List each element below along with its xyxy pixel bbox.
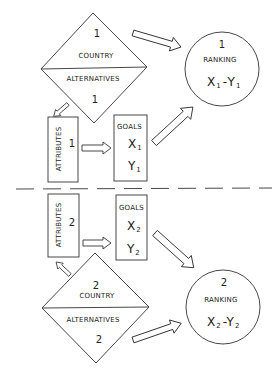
diamond-divider — [42, 307, 149, 308]
diagram-canvas: 1 COUNTRY ALTERNATIVES 1 ATTRIBUTES 1 GO… — [0, 0, 278, 375]
alternatives-label: ALTERNATIVES — [66, 316, 120, 324]
top-section: 1 COUNTRY ALTERNATIVES 1 ATTRIBUTES 1 GO… — [41, 13, 259, 182]
ranking-circle-1: 1 RANKING X1-Y1 — [185, 32, 259, 106]
alternatives-label: ALTERNATIVES — [66, 75, 120, 83]
ranking-number: 1 — [219, 39, 225, 50]
country-diamond-1: 1 COUNTRY ALTERNATIVES 1 — [41, 13, 147, 123]
ranking-formula: X2-Y2 — [207, 315, 239, 330]
goals-x: X1 — [128, 137, 142, 152]
ranking-label: RANKING — [204, 296, 237, 304]
arrow-attributes2-to-goals2 — [83, 237, 111, 249]
arrow-country2-to-attributes2 — [53, 259, 72, 278]
country-diamond-2: 2 COUNTRY ALTERNATIVES 2 — [42, 253, 149, 363]
attributes-box-1: ATTRIBUTES 1 — [48, 117, 78, 182]
country-number: 2 — [93, 280, 99, 291]
attributes-label: ATTRIBUTES — [55, 202, 63, 247]
arrow-goals2-to-ranking2 — [150, 227, 199, 273]
arrow-country1-to-ranking1 — [131, 26, 183, 53]
attributes-number: 2 — [69, 217, 75, 228]
country-number: 1 — [94, 28, 100, 39]
arrow-goals1-to-ranking1 — [149, 102, 198, 149]
goals-x: X2 — [127, 219, 141, 234]
attributes-number: 1 — [69, 138, 75, 149]
country-label: COUNTRY — [78, 52, 114, 60]
bottom-section: ATTRIBUTES 2 GOALS X2 Y2 2 COUNTRY ALTER… — [42, 194, 260, 363]
ranking-circle-2: 2 RANKING X2-Y2 — [186, 270, 260, 344]
goals-y: Y2 — [126, 242, 140, 257]
arrow-country2-to-ranking2 — [131, 317, 184, 347]
section-divider — [16, 188, 272, 189]
goals-y: Y1 — [127, 159, 141, 174]
country-label: COUNTRY — [79, 292, 115, 300]
attributes-box-2: ATTRIBUTES 2 — [48, 194, 79, 257]
attributes-label: ATTRIBUTES — [55, 126, 63, 171]
arrow-attributes1-to-goals1 — [82, 142, 111, 154]
ranking-label: RANKING — [203, 56, 236, 64]
goals-label: GOALS — [117, 123, 142, 131]
goals-box-1: GOALS X1 Y1 — [114, 115, 147, 181]
alternatives-number: 2 — [96, 334, 102, 345]
goals-box-2: GOALS X2 Y2 — [116, 195, 147, 260]
ranking-number: 2 — [221, 277, 227, 288]
goals-label: GOALS — [119, 204, 144, 212]
diamond-divider — [41, 67, 147, 69]
ranking-formula: X1-Y1 — [207, 75, 240, 90]
alternatives-number: 1 — [92, 94, 98, 105]
